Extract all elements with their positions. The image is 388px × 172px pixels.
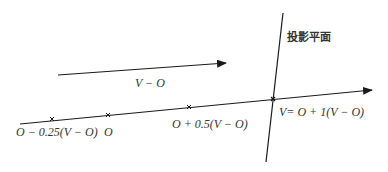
projection-plane-label: 投影平面	[287, 32, 331, 43]
vector-label: V − O	[135, 77, 165, 89]
direction-vector-arrow	[58, 63, 226, 75]
diagram-canvas	[0, 0, 388, 172]
point-label-v: V= O + 1(V − O)	[279, 106, 364, 118]
point-label-o-minus-quarter: O − 0.25(V − O)	[16, 126, 98, 138]
point-label-o: O	[104, 126, 113, 138]
point-label-o-plus-half: O + 0.5(V − O)	[172, 118, 248, 130]
projection-plane-line	[266, 13, 283, 162]
